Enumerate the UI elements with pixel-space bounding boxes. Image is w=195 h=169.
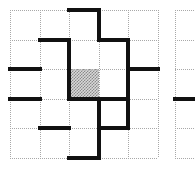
wall-segment-vertical <box>97 126 101 160</box>
gridline-vertical <box>40 10 41 158</box>
wall-segment-vertical <box>126 67 130 101</box>
wall-segment-horizontal <box>173 97 195 101</box>
wall-segment-horizontal <box>97 97 131 101</box>
wall-segment-horizontal <box>8 67 42 71</box>
gridline-horizontal <box>175 69 195 70</box>
gridline-vertical <box>10 10 11 158</box>
wall-segment-vertical <box>67 38 71 72</box>
wall-segment-vertical <box>97 97 101 131</box>
wall-segment-horizontal <box>67 97 101 101</box>
gridline-horizontal <box>175 10 195 11</box>
wall-segment-horizontal <box>126 67 160 71</box>
wall-segment-vertical <box>126 38 130 72</box>
maze-grid-main-maze <box>10 10 158 158</box>
wall-segment-horizontal <box>67 8 101 12</box>
maze-grid-secondary-maze-cropped <box>175 10 195 158</box>
shaded-cell <box>69 69 99 99</box>
wall-segment-horizontal <box>97 126 131 130</box>
wall-segment-vertical <box>97 8 101 42</box>
gridline-horizontal <box>175 128 195 129</box>
gridline-vertical <box>175 10 176 158</box>
wall-segment-vertical <box>67 67 71 101</box>
wall-segment-horizontal <box>97 38 131 42</box>
gridline-horizontal <box>10 40 158 41</box>
wall-segment-horizontal <box>67 156 101 160</box>
wall-segment-vertical <box>126 97 130 131</box>
wall-segment-horizontal <box>38 38 72 42</box>
gridline-horizontal <box>175 40 195 41</box>
gridline-vertical <box>158 10 159 158</box>
gridline-horizontal <box>10 128 158 129</box>
gridline-horizontal <box>175 158 195 159</box>
wall-segment-horizontal <box>8 97 42 101</box>
wall-segment-horizontal <box>38 126 72 130</box>
